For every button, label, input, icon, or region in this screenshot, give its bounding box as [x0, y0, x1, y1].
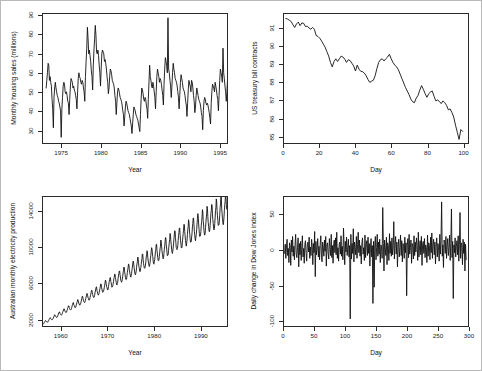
x-tick	[428, 144, 429, 148]
x-tick	[201, 327, 202, 331]
x-tick-label: 1975	[54, 150, 68, 156]
panel-housing-sales: 1975198019851990199530405060708090 Year …	[1, 1, 242, 187]
x-tick	[469, 327, 470, 331]
y-tick	[38, 131, 42, 132]
y-tick	[38, 73, 42, 74]
x-tick	[61, 144, 62, 148]
x-tick	[141, 144, 142, 148]
x-tick	[319, 144, 320, 148]
series-treasury-bills	[284, 14, 468, 143]
y-tick	[279, 321, 283, 322]
xaxis-title-electricity: Year	[128, 350, 141, 357]
x-tick	[107, 327, 108, 331]
x-tick-label: 20	[316, 150, 323, 156]
x-tick	[180, 144, 181, 148]
y-tick	[38, 283, 42, 284]
x-tick-label: 50	[311, 333, 318, 339]
yaxis-title-housing: Monthly housing sales (millions)	[11, 8, 18, 148]
figure-panel-grid: 1975198019851990199530405060708090 Year …	[0, 0, 482, 371]
y-tick	[38, 34, 42, 35]
y-tick-label: 90	[28, 3, 34, 27]
x-tick	[464, 144, 465, 148]
y-tick	[279, 82, 283, 83]
plot-area-housing-sales	[42, 13, 228, 144]
x-tick-label: 1995	[213, 150, 227, 156]
xaxis-title-dow: Day	[370, 350, 382, 357]
y-tick-label: -50	[269, 274, 275, 298]
x-tick	[391, 144, 392, 148]
x-tick-label: 250	[433, 333, 443, 339]
x-tick-label: 1985	[134, 150, 148, 156]
x-tick-label: 0	[281, 333, 284, 339]
x-tick-label: 1970	[101, 333, 115, 339]
y-tick-label: -100	[269, 309, 275, 333]
x-tick	[283, 327, 284, 331]
x-tick-label: 1960	[54, 333, 68, 339]
y-tick	[38, 247, 42, 248]
x-tick-label: 100	[458, 150, 468, 156]
y-tick-label: 2000	[28, 308, 34, 332]
yaxis-title-electricity: Australian monthly electricity productio…	[10, 186, 17, 336]
x-tick-label: 1990	[173, 150, 187, 156]
y-tick-label: 91	[269, 16, 275, 40]
y-tick	[279, 119, 283, 120]
x-tick	[345, 327, 346, 331]
x-tick	[314, 327, 315, 331]
y-tick	[279, 100, 283, 101]
x-tick	[283, 144, 284, 148]
y-tick	[279, 214, 283, 215]
plot-area-treasury-bills	[283, 13, 469, 144]
x-tick-label: 1980	[147, 333, 161, 339]
xaxis-title-treasury: Day	[370, 167, 382, 174]
x-tick	[438, 327, 439, 331]
xaxis-title-housing: Year	[128, 167, 141, 174]
y-tick-label: 0	[269, 238, 275, 262]
y-tick	[38, 54, 42, 55]
panel-dow-jones-change: 050100150200250300-100-50050 Day Daily c…	[242, 187, 482, 371]
x-tick-label: 300	[464, 333, 474, 339]
x-tick	[407, 327, 408, 331]
y-tick	[279, 64, 283, 65]
x-tick-label: 80	[424, 150, 431, 156]
plot-area-dow-jones-change	[283, 196, 469, 327]
x-tick	[355, 144, 356, 148]
y-tick	[279, 250, 283, 251]
x-tick	[61, 327, 62, 331]
plot-area-electricity-production	[42, 196, 228, 327]
x-tick-label: 100	[340, 333, 350, 339]
x-tick	[154, 327, 155, 331]
x-tick-label: 1990	[194, 333, 208, 339]
x-tick-label: 200	[402, 333, 412, 339]
x-tick-label: 1980	[94, 150, 108, 156]
y-tick	[38, 111, 42, 112]
y-tick	[279, 286, 283, 287]
y-tick-label: 10000	[28, 235, 34, 259]
y-tick	[279, 46, 283, 47]
y-tick	[38, 320, 42, 321]
x-tick-label: 40	[352, 150, 359, 156]
y-tick	[279, 28, 283, 29]
y-tick	[279, 137, 283, 138]
y-tick	[38, 211, 42, 212]
y-tick-label: 6000	[28, 271, 34, 295]
y-tick-label: 50	[269, 202, 275, 226]
panel-electricity-production: 1960197019801990200060001000014000 Year …	[1, 187, 242, 371]
y-tick	[38, 15, 42, 16]
series-dow-jones-change	[284, 197, 468, 326]
x-tick	[220, 144, 221, 148]
x-tick-label: 150	[371, 333, 381, 339]
x-tick	[101, 144, 102, 148]
x-tick	[376, 327, 377, 331]
yaxis-title-treasury: US treasury bill contracts	[252, 8, 259, 148]
yaxis-title-dow: Daily change in Dow Jones index	[251, 186, 258, 336]
x-tick-label: 0	[281, 150, 284, 156]
x-tick-label: 60	[388, 150, 395, 156]
panel-treasury-bills: 02040608010085868788899091 Day US treasu…	[242, 1, 482, 187]
series-electricity-production	[43, 197, 227, 326]
y-tick-label: 14000	[28, 199, 34, 223]
series-housing-sales	[43, 14, 227, 143]
y-tick	[38, 92, 42, 93]
